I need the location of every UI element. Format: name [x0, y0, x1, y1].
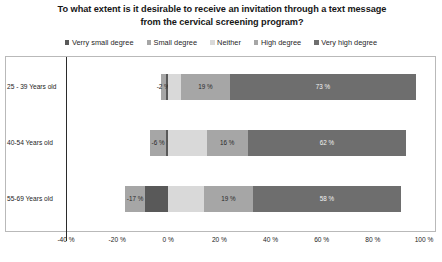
x-axis-tick-label: 80 % — [365, 236, 380, 243]
bar-segment — [145, 186, 168, 212]
category-label: 40-54 Years old — [7, 139, 65, 146]
category-label: 55-69 Years old — [7, 195, 65, 202]
legend-swatch-icon — [210, 40, 215, 45]
bar-segment: -6 % — [150, 130, 165, 156]
legend-item[interactable]: Verry small degree — [65, 38, 134, 47]
bar-segment: 73 % — [230, 74, 417, 100]
legend-item[interactable]: Small degree — [147, 38, 198, 47]
legend-item-label: Neither — [217, 38, 241, 47]
x-axis-tick-label: 20 % — [212, 236, 227, 243]
legend-item[interactable]: High degree — [254, 38, 301, 47]
x-axis-tick-label: 100 % — [415, 236, 434, 243]
bar-segment: -2 % — [161, 74, 166, 100]
bar-segment: -17 % — [125, 186, 145, 212]
category-label: 25 - 39 Years old — [7, 83, 65, 90]
legend-item-label: High degree — [261, 38, 301, 47]
x-axis: -40 %-20 %0 %20 %40 %60 %80 %100 % — [0, 236, 442, 250]
bar-segment: 62 % — [248, 130, 407, 156]
bar-segment-label: 58 % — [320, 196, 334, 202]
legend-item[interactable]: Neither — [210, 38, 241, 47]
bar-segment: 19 % — [204, 186, 253, 212]
bar-segment-label: 62 % — [320, 140, 334, 146]
legend-item-label: Small degree — [154, 38, 198, 47]
bar-segment: 19 % — [181, 74, 230, 100]
x-axis-tick-label: 40 % — [263, 236, 278, 243]
bar-segment — [168, 130, 206, 156]
legend-swatch-icon — [254, 40, 259, 45]
bar-segment-label: -6 % — [152, 140, 165, 146]
chart-legend: Verry small degreeSmall degreeNeitherHig… — [0, 38, 442, 47]
bar-segment-label: 16 % — [220, 140, 234, 146]
bar-segment — [168, 186, 204, 212]
bar-segment — [168, 74, 181, 100]
legend-item-label: Verry small degree — [72, 38, 134, 47]
x-axis-tick-label: 0 % — [163, 236, 174, 243]
x-axis-tick-label: 60 % — [314, 236, 329, 243]
x-axis-tick-label: -20 % — [109, 236, 126, 243]
legend-swatch-icon — [147, 40, 152, 45]
bar-segment-label: 19 % — [198, 84, 212, 90]
bar-segment-label: 73 % — [316, 84, 330, 90]
bar-segment: 58 % — [253, 186, 401, 212]
legend-swatch-icon — [65, 40, 70, 45]
bar-segment-label: 19 % — [221, 196, 235, 202]
chart-title: To what extent is it desirable to receiv… — [52, 3, 392, 28]
x-axis-tick-label: -40 % — [57, 236, 74, 243]
legend-item[interactable]: Very high degree — [314, 38, 377, 47]
legend-item-label: Very high degree — [321, 38, 377, 47]
legend-swatch-icon — [314, 40, 319, 45]
bar-segment-label: -17 % — [127, 196, 143, 202]
bar-segment: 16 % — [207, 130, 248, 156]
zero-axis-line — [66, 57, 67, 241]
chart-container: To what extent is it desirable to receiv… — [0, 0, 442, 262]
